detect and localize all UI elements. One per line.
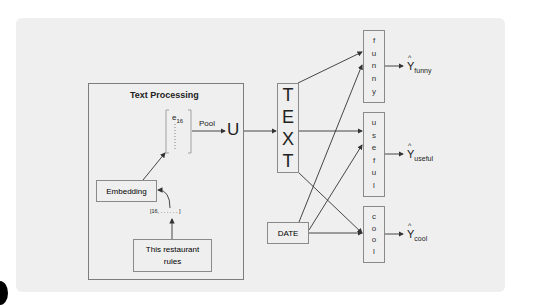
output-useful: ^Yuseful [407, 148, 433, 162]
pooled-output-u: U [227, 120, 239, 140]
embedding-vector-label: e16 [172, 113, 183, 124]
embedding-box: Embedding [96, 180, 157, 202]
token-ids: [16, . . . . . . ] [150, 208, 181, 214]
output-funny: ^Yfunny [407, 60, 431, 74]
output-cool: ^Ycool [407, 228, 427, 242]
head-cool: c o o l [363, 206, 385, 263]
date-node: DATE [267, 222, 309, 244]
head-useful: u s e f u l [363, 112, 385, 197]
text-node: T E X T [277, 83, 299, 173]
connector-lines [0, 0, 545, 305]
input-text-box: This restaurant rules [133, 239, 212, 272]
head-funny: f u n n y [363, 30, 385, 103]
pool-label: Pool [199, 119, 215, 128]
text-processing-title: Text Processing [130, 90, 199, 100]
